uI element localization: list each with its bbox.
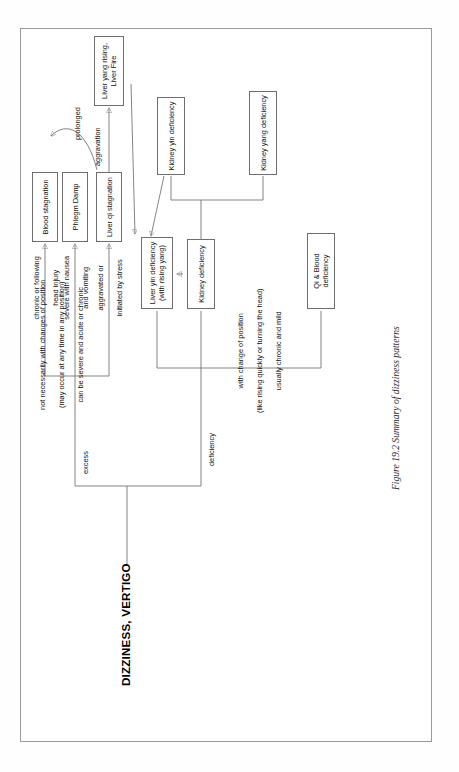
edge-label-aggravation: aggravation bbox=[93, 127, 102, 166]
headinjury-line2: head injury bbox=[51, 270, 60, 306]
edge-label-prolonged: prolonged bbox=[73, 107, 82, 140]
deficiency-description: with change of position (like rising qui… bbox=[227, 244, 293, 474]
figure-caption: Figure 19.2 Summary of dizziness pattern… bbox=[390, 326, 401, 490]
deficiency-branch-label: deficiency bbox=[207, 433, 216, 466]
headinjury-line1: chronic or following bbox=[32, 256, 41, 319]
figure-title: DIZZINESS, VERTIGO bbox=[119, 563, 132, 686]
deficiency-desc-line3: usually chronic and mild bbox=[274, 311, 283, 390]
deficiency-desc-line2: (like rising quickly or turning the head… bbox=[255, 289, 264, 413]
node-liver-yang-rising-liver-fire[interactable]: Liver yang rising, Liver Fire bbox=[94, 36, 124, 106]
node-phlegm-damp[interactable]: Phlegm Damp bbox=[62, 172, 88, 242]
diagram-canvas: DIZZINESS, VERTIGO not necessarily with … bbox=[31, 36, 429, 736]
node-blood-stagnation[interactable]: Blood stagnation bbox=[32, 172, 58, 242]
deficiency-desc-line1: with change of position bbox=[236, 313, 245, 388]
edge-label-chronic-head-injury: chronic or following head injury bbox=[23, 244, 70, 348]
excess-branch-label: excess bbox=[81, 451, 90, 474]
scanned-page: DIZZINESS, VERTIGO not necessarily with … bbox=[0, 0, 459, 772]
rotated-figure-wrapper: DIZZINESS, VERTIGO not necessarily with … bbox=[31, 36, 429, 736]
node-kidney-deficiency[interactable]: Kidney deficiency bbox=[187, 239, 215, 309]
node-kidney-yin-deficiency[interactable]: Kidney yin deficiency bbox=[157, 97, 185, 175]
node-liver-qi-stagnation[interactable]: Liver qi stagnation bbox=[96, 172, 122, 242]
node-kidney-yang-deficiency[interactable]: Kidney yang deficiency bbox=[249, 91, 277, 175]
aggravated-line2: initiated by stress bbox=[115, 259, 124, 316]
node-qi-blood-deficiency[interactable]: Qi & Blood deficiency bbox=[307, 233, 335, 309]
node-liver-yin-deficiency[interactable]: Liver yin deficiency (with rising yang) bbox=[141, 237, 173, 309]
nausea-line2: and vomiting bbox=[81, 267, 90, 309]
